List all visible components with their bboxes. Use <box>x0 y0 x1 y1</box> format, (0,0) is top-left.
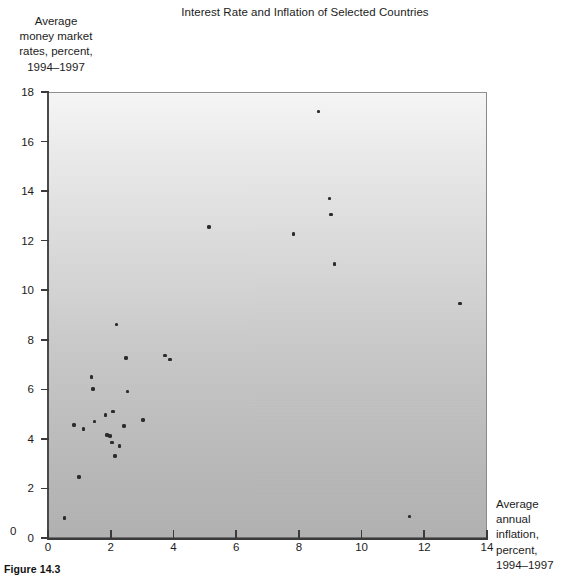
y-axis-tick <box>41 141 49 143</box>
scatter-point <box>115 323 119 327</box>
scatter-point <box>113 454 117 458</box>
scatter-point <box>292 232 296 236</box>
x-axis-tick-label: 12 <box>404 541 444 553</box>
x-axis-tick-label: 10 <box>342 541 382 553</box>
x-axis-tick <box>486 530 488 539</box>
y-axis-tick-label: 16 <box>0 136 34 148</box>
scatter-point <box>111 410 115 414</box>
scatter-point <box>317 110 321 114</box>
y-axis-tick-label: 4 <box>0 433 34 445</box>
y-axis-tick <box>41 488 49 490</box>
scatter-point <box>124 356 128 360</box>
scatter-point <box>207 225 211 229</box>
scatter-point <box>91 387 95 391</box>
y-axis-line <box>47 92 49 540</box>
scatter-point <box>72 423 76 427</box>
figure-root: Interest Rate and Inflation of Selected … <box>0 0 561 584</box>
scatter-point <box>90 375 94 379</box>
x-axis-tick <box>173 530 175 539</box>
scatter-plot-area <box>48 92 487 538</box>
x-axis-label-line-2: annual <box>496 512 560 527</box>
y-axis-tick-label: 8 <box>0 334 34 346</box>
scatter-point <box>118 444 122 448</box>
y-axis-label-line-2: money market <box>2 29 110 44</box>
x-axis-label-line-1: Average <box>496 497 560 512</box>
scatter-point <box>333 262 337 266</box>
x-axis-tick <box>423 530 425 539</box>
y-axis-tick <box>41 438 49 440</box>
x-axis-tick <box>235 530 237 539</box>
scatter-point <box>329 213 333 217</box>
y-axis-tick-label: 12 <box>0 235 34 247</box>
x-axis-tick-label: 0 <box>28 541 68 553</box>
scatter-point <box>458 302 462 306</box>
scatter-point <box>77 475 81 479</box>
scatter-point <box>104 413 108 417</box>
y-axis-tick <box>41 289 49 291</box>
scatter-point <box>110 441 114 445</box>
y-axis-label: Average money market rates, percent, 199… <box>2 14 110 75</box>
y-axis-tick <box>41 91 49 93</box>
x-axis-tick <box>110 530 112 539</box>
chart-title: Interest Rate and Inflation of Selected … <box>140 6 470 18</box>
x-axis-tick-label: 8 <box>279 541 319 553</box>
scatter-point <box>93 420 97 424</box>
y-axis-tick <box>41 389 49 391</box>
scatter-point <box>141 418 145 422</box>
scatter-point <box>163 354 167 358</box>
y-axis-label-line-3: rates, percent, <box>2 44 110 59</box>
scatter-point <box>63 516 67 520</box>
y-axis-tick <box>41 339 49 341</box>
x-axis-tick-label: 14 <box>467 541 507 553</box>
y-axis-tick-label: 2 <box>0 482 34 494</box>
x-axis-tick-label: 6 <box>216 541 256 553</box>
figure-caption: Figure 14.3 <box>4 563 61 575</box>
x-axis-tick-label: 2 <box>91 541 131 553</box>
x-axis-label: Average annual inflation, percent, 1994–… <box>496 497 560 573</box>
scatter-point <box>168 358 172 362</box>
y-axis-tick-label: 10 <box>0 284 34 296</box>
y-axis-label-line-1: Average <box>2 14 110 29</box>
y-axis-tick <box>41 190 49 192</box>
scatter-point <box>328 197 332 201</box>
x-axis-label-line-5: 1994–1997 <box>496 558 560 573</box>
x-axis-tick <box>361 530 363 539</box>
x-axis-tick <box>47 530 49 539</box>
scatter-point <box>122 424 126 428</box>
x-axis-line <box>48 538 488 540</box>
scatter-point <box>108 434 112 438</box>
y-axis-tick-label: 14 <box>0 185 34 197</box>
scatter-point <box>82 427 86 431</box>
y-axis-tick-label: 6 <box>0 383 34 395</box>
scatter-point <box>408 515 412 519</box>
y-axis-tick <box>41 240 49 242</box>
y-axis-tick-label: 18 <box>0 86 34 98</box>
scatter-point <box>126 390 130 394</box>
x-axis-tick-label: 4 <box>153 541 193 553</box>
y-axis-origin-label: 0 <box>10 525 16 537</box>
y-axis-label-line-4: 1994–1997 <box>2 60 110 75</box>
x-axis-tick <box>298 530 300 539</box>
